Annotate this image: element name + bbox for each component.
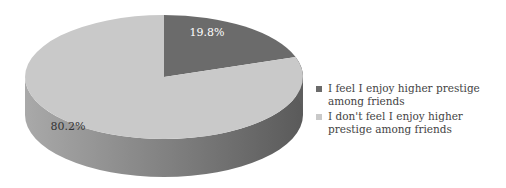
legend-item-dont-feel: I don't feel I enjoy higher prestige amo… <box>316 110 506 136</box>
legend-swatch-dont-feel <box>316 114 322 120</box>
legend-label-feel: I feel I enjoy higher prestige among fri… <box>328 82 480 107</box>
legend-item-feel: I feel I enjoy higher prestige among fri… <box>316 82 506 108</box>
legend-label-dont-feel: I don't feel I enjoy higher prestige amo… <box>328 110 463 135</box>
legend-swatch-feel <box>316 86 322 92</box>
data-label-0: 19.8% <box>190 26 225 39</box>
data-label-1: 80.2% <box>51 120 86 133</box>
legend: I feel I enjoy higher prestige among fri… <box>316 82 506 138</box>
